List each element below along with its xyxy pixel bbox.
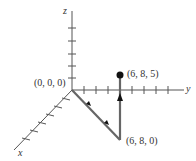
z-axis: [68, 11, 76, 90]
y-axis-label: y: [186, 84, 190, 94]
path-segment-1: [72, 90, 120, 140]
x-axis: [14, 90, 72, 150]
origin-label: (0, 0, 0): [34, 78, 66, 88]
arrow-icon: [117, 93, 123, 101]
z-axis-label: z: [63, 6, 67, 16]
point-685-label: (6, 8, 5): [127, 69, 159, 79]
coordinate-diagram: [0, 0, 196, 161]
point-680-label: (6, 8, 0): [126, 136, 158, 146]
path-segment-2: [117, 75, 123, 140]
y-axis: [72, 86, 184, 94]
point-dot: [117, 72, 124, 79]
x-axis-label: x: [18, 148, 22, 158]
